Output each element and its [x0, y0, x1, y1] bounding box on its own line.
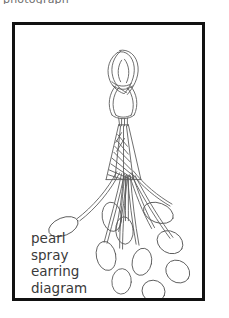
pearl: [139, 277, 169, 298]
caption-line-3: earring: [31, 263, 87, 280]
diagram-caption: pearl spray earring diagram: [31, 230, 87, 296]
loop-knot-hook: [108, 50, 138, 126]
pearl: [141, 198, 177, 227]
pearl: [115, 216, 134, 245]
caption-line-4: diagram: [31, 280, 87, 297]
pearl: [153, 226, 187, 258]
pearl: [130, 246, 155, 277]
pearl: [161, 255, 194, 287]
fanning-strand-bundle: [77, 171, 173, 249]
hatched-cone-cap: [106, 125, 141, 180]
page-root: photograph: [0, 0, 229, 318]
pearl: [94, 240, 119, 273]
picture-frame: pearl spray earring diagram: [12, 22, 205, 301]
clipped-header-text: photograph: [3, 0, 123, 4]
caption-line-2: spray: [31, 247, 87, 264]
caption-line-1: pearl: [31, 230, 87, 247]
pearl: [111, 268, 132, 295]
